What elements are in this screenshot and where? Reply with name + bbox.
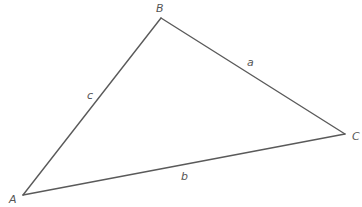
side-b-line [23, 134, 345, 195]
side-a-label: a [247, 56, 254, 69]
side-c-label: c [87, 89, 93, 102]
side-b-label: b [181, 170, 188, 183]
triangle-diagram: B C A a b c [0, 0, 362, 207]
vertex-a-label: A [8, 193, 17, 206]
side-c-line [23, 18, 161, 195]
vertex-c-label: C [352, 130, 360, 143]
side-a-line [161, 18, 345, 134]
vertex-b-label: B [156, 2, 164, 15]
